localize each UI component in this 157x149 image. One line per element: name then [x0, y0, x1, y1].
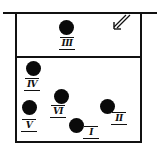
label-i: I — [83, 128, 99, 137]
left-wall — [15, 12, 17, 142]
ball-iv — [26, 61, 41, 76]
right-wall — [140, 12, 142, 142]
label-ii: II — [111, 114, 127, 123]
label-iv: IV — [24, 80, 40, 89]
label-vi: VI — [50, 107, 66, 116]
diagram-canvas: III IV V VI I II — [0, 0, 157, 149]
label-i-text: I — [89, 127, 93, 137]
top-line — [3, 12, 157, 14]
ball-vi — [54, 89, 69, 104]
label-iv-text: IV — [27, 79, 37, 89]
label-iii: III — [59, 39, 75, 48]
ball-i — [69, 118, 84, 133]
label-vi-text: VI — [53, 106, 63, 116]
bottom-line — [15, 141, 142, 143]
label-iii-text: III — [61, 38, 72, 48]
label-ii-text: II — [115, 113, 122, 123]
ball-iii — [59, 20, 74, 35]
divider-line — [15, 56, 142, 58]
double-arrow-down-left-icon — [112, 14, 132, 32]
ball-v — [22, 100, 37, 115]
label-v: V — [21, 121, 37, 130]
label-v-text: V — [26, 120, 32, 130]
